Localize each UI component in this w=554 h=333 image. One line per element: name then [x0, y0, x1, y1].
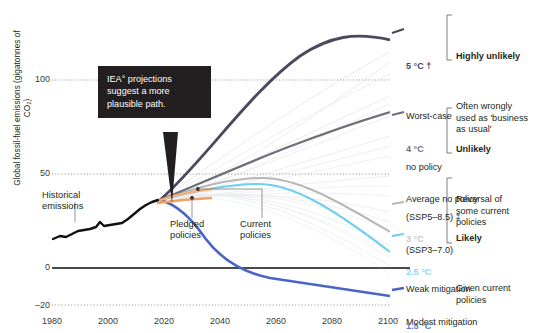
category-likely-body: Given current policies [456, 283, 511, 306]
leader-current-policies [198, 189, 262, 218]
chart-root: Global fossil-fuel emissions (gigatonnes… [0, 0, 554, 333]
category-unlikely-head: Unlikely [456, 144, 509, 155]
annotation-current-policies: Current policies [240, 219, 271, 242]
series-line-paris-goals [160, 200, 390, 296]
connector-2_5c [392, 234, 404, 236]
connector-4c [392, 112, 404, 115]
connector-1_5c [392, 288, 404, 290]
category-highly-unlikely-head: Highly unlikely [456, 51, 528, 62]
iea-callout-text: IEA° projections suggest a more plausibl… [107, 74, 172, 109]
annotation-pledged-policies: Pledged policies [170, 219, 204, 242]
connector-3c [392, 202, 404, 204]
iea-callout: IEA° projections suggest a more plausibl… [98, 66, 211, 118]
annotation-historical-emissions: Historical emissions [42, 190, 83, 213]
category-likely: Likely Given current policies [456, 194, 511, 333]
connector-5c [392, 29, 404, 33]
category-likely-head: Likely [456, 233, 511, 244]
scenario-5c-temp: 5 °C † [406, 61, 461, 72]
